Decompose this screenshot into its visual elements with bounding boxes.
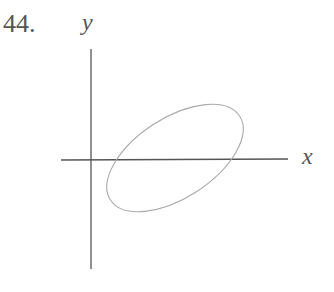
ellipse-curve xyxy=(89,83,262,234)
graph xyxy=(0,0,334,292)
x-axis xyxy=(61,159,288,160)
